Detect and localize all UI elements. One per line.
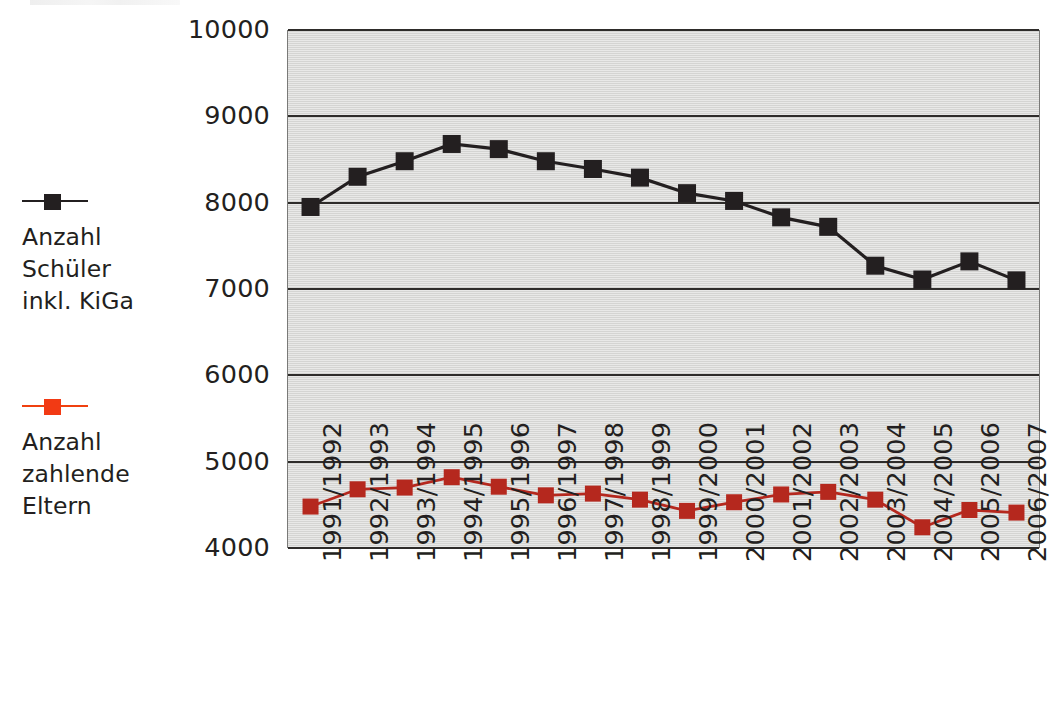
data-point-marker	[960, 252, 978, 270]
chart-root: Anzahl Schüler inkl. KiGa Anzahl zahlend…	[0, 0, 1059, 722]
x-tick-label-2004-2005: 2004/2005	[931, 422, 957, 562]
legend-label-eltern: Anzahl zahlende Eltern	[22, 426, 175, 522]
series-line-0	[311, 144, 1017, 280]
x-tick-label-1994-1995: 1994/1995	[461, 422, 487, 562]
legend-label-schueler: Anzahl Schüler inkl. KiGa	[22, 221, 175, 317]
y-axis-tick-labels: 10000900080007000600050004000	[170, 30, 270, 548]
legend-entry-eltern: Anzahl zahlende Eltern	[0, 395, 175, 522]
y-tick-label-7000: 7000	[170, 276, 270, 302]
data-point-marker	[349, 168, 367, 186]
data-point-marker	[913, 271, 931, 289]
data-point-marker	[443, 135, 461, 153]
data-point-marker	[678, 184, 696, 202]
data-point-marker	[1007, 271, 1025, 289]
y-tick-label-8000: 8000	[170, 190, 270, 216]
x-tick-label-1992-1993: 1992/1993	[367, 422, 393, 562]
y-tick-label-10000: 10000	[170, 17, 270, 43]
data-point-marker	[537, 152, 555, 170]
x-tick-label-1996-1997: 1996/1997	[555, 422, 581, 562]
x-tick-label-2000-2001: 2000/2001	[743, 422, 769, 562]
data-point-marker	[490, 140, 508, 158]
data-point-marker	[396, 152, 414, 170]
x-tick-label-2001-2002: 2001/2002	[790, 422, 816, 562]
x-tick-label-2006-2007: 2006/2007	[1025, 422, 1051, 562]
x-tick-label-1999-2000: 1999/2000	[696, 422, 722, 562]
x-tick-label-1991-1992: 1991/1992	[320, 422, 346, 562]
x-tick-label-1998-1999: 1998/1999	[649, 422, 675, 562]
data-point-marker	[584, 160, 602, 178]
data-point-marker	[819, 218, 837, 236]
legend-entry-schueler: Anzahl Schüler inkl. KiGa	[0, 190, 175, 317]
page-edge-artifact	[30, 0, 180, 5]
x-tick-label-1997-1998: 1997/1998	[602, 422, 628, 562]
legend-key-schueler	[22, 190, 102, 212]
data-point-marker	[772, 208, 790, 226]
legend-square-marker-icon-eltern	[44, 399, 61, 415]
data-point-marker	[866, 257, 884, 275]
x-tick-label-2002-2003: 2002/2003	[837, 422, 863, 562]
y-tick-label-5000: 5000	[170, 449, 270, 475]
data-point-marker	[302, 198, 320, 216]
y-tick-label-9000: 9000	[170, 104, 270, 130]
x-tick-label-1995-1996: 1995/1996	[508, 422, 534, 562]
y-tick-label-6000: 6000	[170, 363, 270, 389]
legend-square-marker-icon-schueler	[44, 194, 61, 210]
data-point-marker	[631, 169, 649, 187]
x-tick-label-2003-2004: 2003/2004	[884, 422, 910, 562]
x-tick-label-1993-1994: 1993/1994	[414, 422, 440, 562]
x-axis-tick-labels: 1991/19921992/19931993/19941994/19951995…	[287, 548, 1040, 722]
x-tick-label-2005-2006: 2005/2006	[978, 422, 1004, 562]
data-point-marker	[725, 192, 743, 210]
y-tick-label-4000: 4000	[170, 535, 270, 561]
legend-key-eltern	[22, 395, 102, 417]
